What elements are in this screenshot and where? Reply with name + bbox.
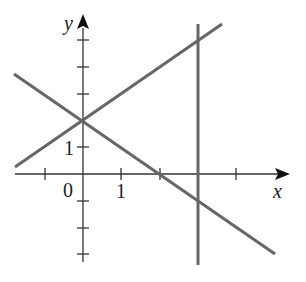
x-tick-label-1: 1 (116, 180, 126, 202)
graph-figure: y x 0 1 1 (0, 0, 306, 282)
y-axis-label: y (62, 12, 73, 35)
y-axis-arrow-icon (77, 14, 89, 29)
origin-label: 0 (63, 179, 73, 201)
x-axis-label: x (272, 180, 282, 202)
coordinate-plane: y x 0 1 1 (0, 0, 306, 282)
decreasing-line (14, 74, 275, 254)
y-tick-label-1: 1 (64, 137, 74, 159)
